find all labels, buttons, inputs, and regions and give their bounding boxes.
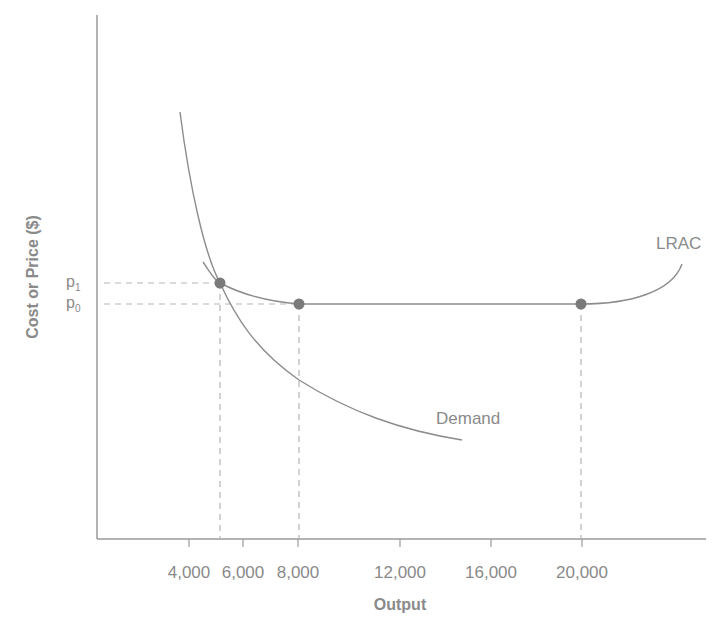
point-20000-p0: [576, 299, 587, 310]
x-tick-label: 4,000: [168, 563, 211, 582]
reference-lines: [104, 283, 581, 539]
x-tick-label: 20,000: [556, 563, 608, 582]
x-tick-label: 8,000: [277, 563, 320, 582]
p1-main: p: [66, 273, 75, 290]
x-ticks: [189, 539, 582, 547]
x-tick-label: 12,000: [374, 563, 426, 582]
p0-sub: 0: [75, 303, 81, 314]
demand-curve: [180, 112, 462, 440]
p1-label: p1: [66, 273, 81, 293]
chart: 4,000 6,000 8,000 12,000 16,000 20,000 O…: [0, 0, 724, 632]
x-axis-title: Output: [374, 596, 427, 613]
demand-label: Demand: [436, 409, 500, 428]
lrac-label: LRAC: [656, 234, 701, 253]
x-tick-label: 16,000: [465, 563, 517, 582]
lrac-curve: [203, 262, 682, 304]
x-tick-label: 6,000: [222, 563, 265, 582]
point-8000-p0: [294, 299, 305, 310]
p0-main: p: [66, 294, 75, 311]
p0-label: p0: [66, 294, 81, 314]
x-tick-labels: 4,000 6,000 8,000 12,000 16,000 20,000: [168, 563, 608, 582]
point-p1-intersection: [215, 278, 226, 289]
p1-sub: 1: [75, 282, 81, 293]
y-axis-title: Cost or Price ($): [24, 215, 41, 339]
